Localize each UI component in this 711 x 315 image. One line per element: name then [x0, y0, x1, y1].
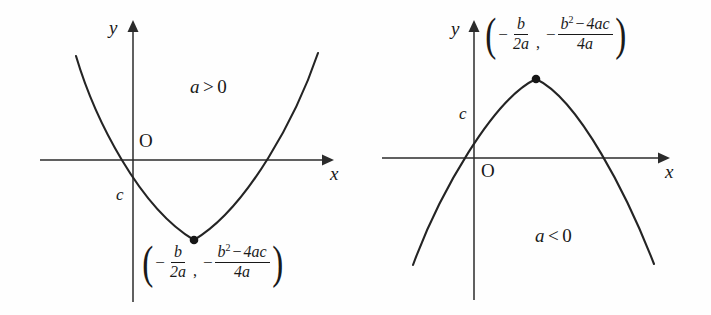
sign-condition-right: a<0	[535, 226, 572, 245]
x-coord-fraction-left: b 2a	[167, 243, 189, 282]
vertex-dot-right	[532, 75, 541, 84]
x-coord-numerator-right: b	[514, 15, 528, 35]
y-coord-numerator-left: b2−4ac	[215, 243, 270, 263]
sign-operator-left: >	[200, 76, 217, 97]
origin-label-left: O	[139, 131, 153, 150]
vertex-coordinate-left: ( − b 2a , − b2−4ac 4a )	[140, 243, 285, 282]
y-num-base-right: b	[561, 15, 569, 32]
y-coord-fraction-right: b2−4ac 4a	[558, 15, 613, 54]
y-intercept-label-left: c	[116, 186, 124, 203]
y-coord-sign-left: −	[202, 253, 214, 273]
x-coord-fraction-right: b 2a	[510, 15, 532, 54]
x-coord-numerator-left: b	[171, 243, 185, 263]
sign-variable-right: a	[535, 225, 545, 246]
x-coord-denominator-right: 2a	[510, 35, 532, 54]
coord-separator-left: ,	[190, 262, 202, 282]
y-axis-left	[128, 20, 139, 302]
sign-operator-right: <	[545, 225, 562, 246]
y-intercept-label-right: c	[459, 105, 467, 122]
y-axis-right	[469, 20, 480, 300]
sign-condition-left: a>0	[190, 77, 227, 96]
close-paren-left: )	[272, 244, 283, 282]
open-paren-left: (	[142, 244, 153, 282]
vertex-coordinate-right: ( − b 2a , − b2−4ac 4a )	[483, 15, 628, 54]
parabola-panel-a-positive: y x O c a>0 ( − b 2a , − b2−4ac 4a )	[0, 0, 355, 315]
sign-value-left: 0	[217, 76, 227, 97]
y-num-base-left: b	[218, 243, 226, 260]
x-coord-sign-right: −	[497, 25, 509, 45]
x-coord-denominator-left: 2a	[167, 263, 189, 282]
y-coord-sign-right: −	[545, 25, 557, 45]
y-num-exponent-right: 2	[569, 14, 574, 25]
y-axis-label-right: y	[451, 19, 459, 38]
open-paren-right: (	[485, 16, 496, 54]
sign-variable-left: a	[190, 76, 200, 97]
x-axis-label-right: x	[665, 162, 673, 181]
x-axis-label-left: x	[330, 164, 338, 183]
x-axis-right	[382, 153, 670, 164]
y-axis-label-left: y	[109, 18, 117, 37]
y-num-tail-left: 4ac	[244, 243, 267, 260]
y-coord-denominator-left: 4a	[231, 263, 253, 282]
figure-board: y x O c a>0 ( − b 2a , − b2−4ac 4a )	[0, 0, 711, 315]
y-num-operator-left: −	[231, 243, 244, 260]
y-coord-denominator-right: 4a	[574, 35, 596, 54]
y-coord-numerator-right: b2−4ac	[558, 15, 613, 35]
y-num-operator-right: −	[574, 15, 587, 32]
parabola-curve-down	[413, 79, 654, 265]
x-coord-sign-left: −	[154, 253, 166, 273]
y-coord-fraction-left: b2−4ac 4a	[215, 243, 270, 282]
coord-separator-right: ,	[533, 34, 545, 54]
close-paren-right: )	[615, 16, 626, 54]
parabola-panel-a-negative: y x O c a<0 ( − b 2a , − b2−4ac 4a )	[355, 0, 711, 315]
y-num-exponent-left: 2	[226, 242, 231, 253]
x-axis-left	[40, 155, 334, 166]
y-num-tail-right: 4ac	[587, 15, 610, 32]
sign-value-right: 0	[562, 225, 572, 246]
origin-label-right: O	[481, 161, 495, 180]
